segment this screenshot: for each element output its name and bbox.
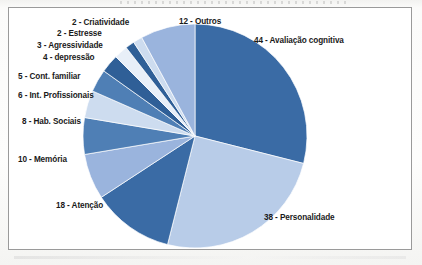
pie-label-cont-familiar: 5 - Cont. familiar [18,72,80,82]
plot-area: 2 - Criatividade 2 - Estresse 3 - Agress… [9,8,411,249]
pie-label-criatividade: 2 - Criatividade [72,18,129,28]
pie-label-personalidade: 38 - Personalidade [264,213,335,223]
pie-label-estresse: 2 - Estresse [57,29,102,39]
pie-label-memoria: 10 - Memória [18,155,67,165]
pie-label-depressao: 4 - depressão [43,53,95,63]
pie-label-avaliacao-cognitiva: 44 - Avaliação cognitiva [254,36,344,46]
scan-speckle-top [120,1,350,4]
chart-frame: 2 - Criatividade 2 - Estresse 3 - Agress… [8,7,412,250]
scan-speckle-bottom [14,256,406,259]
pie-label-agressividade: 3 - Agressividade [37,41,103,51]
pie-label-hab-sociais: 8 - Hab. Sociais [22,117,81,127]
pie-label-atencao: 18 - Atenção [56,201,103,211]
pie-label-int-profissionais: 6 - Int. Profissionais [18,91,94,101]
figure-page: 2 - Criatividade 2 - Estresse 3 - Agress… [0,0,422,265]
pie-label-outros: 12 - Outros [179,17,221,27]
